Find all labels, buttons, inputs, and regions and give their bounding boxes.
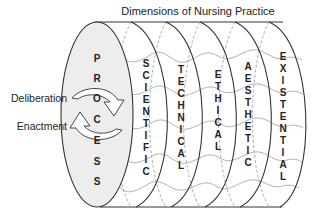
dimension-letter: N <box>279 123 286 134</box>
process-letter: E <box>94 135 101 146</box>
dimension-letter: S <box>280 87 287 98</box>
dimension-letter: I <box>217 105 220 116</box>
dimension-letter: I <box>180 124 183 135</box>
dimension-letter: C <box>142 70 149 81</box>
dimension-letter: I <box>145 82 148 93</box>
dimension-letter: L <box>280 171 286 182</box>
dimension-letter: N <box>177 112 184 123</box>
dimension-letter: I <box>145 154 148 165</box>
dimension-ethical: E T H I C A L <box>214 69 221 152</box>
dimension-letter: A <box>279 159 286 170</box>
dimension-letter: E <box>215 69 222 80</box>
dimension-letter: H <box>177 100 184 111</box>
dimension-letter: N <box>142 106 149 117</box>
deliberation-label: Deliberation <box>11 92 67 104</box>
dimension-letter: A <box>214 129 221 140</box>
dimension-letter: E <box>245 73 252 84</box>
dimension-letter: C <box>177 88 184 99</box>
dimension-letter: E <box>280 111 287 122</box>
dimension-letter: X <box>280 63 287 74</box>
dimension-letter: C <box>244 157 251 168</box>
dimension-letter: S <box>143 58 150 69</box>
dimension-letter: I <box>145 130 148 141</box>
dimension-letter: E <box>178 76 185 87</box>
dimension-letter: I <box>282 75 285 86</box>
dimension-letter: A <box>177 148 184 159</box>
dimension-letter: L <box>178 160 184 171</box>
process-letter: O <box>93 93 101 104</box>
process-letter: S <box>94 176 101 187</box>
dimension-letter: L <box>215 141 221 152</box>
nursing-dimensions-diagram: Dimensions of Nursing Practice Deliberat… <box>0 0 314 221</box>
dimension-letter: C <box>214 117 221 128</box>
dimension-letter: T <box>143 118 149 129</box>
process-word: P R O C E S S <box>93 53 101 187</box>
dimension-letter: T <box>280 99 286 110</box>
dimension-technical: T E C H N I C A L <box>177 64 184 171</box>
dimension-letter: C <box>142 166 149 177</box>
dimension-letter: A <box>244 61 251 72</box>
diagram-title: Dimensions of Nursing Practice <box>121 5 274 17</box>
process-letter: P <box>94 53 101 64</box>
dimension-letter: T <box>178 64 184 75</box>
dimension-letter: T <box>245 97 251 108</box>
dimension-letter: H <box>214 93 221 104</box>
dimension-letter: F <box>143 142 149 153</box>
process-letter: S <box>94 156 101 167</box>
dimension-letter: E <box>245 121 252 132</box>
dimension-letter: S <box>245 85 252 96</box>
dimension-aesthetic: A E S T H E T I C <box>244 61 251 168</box>
dimension-letter: E <box>280 51 287 62</box>
dimension-letter: E <box>143 94 150 105</box>
dimension-letter: C <box>177 136 184 147</box>
dimension-letter: H <box>244 109 251 120</box>
dimension-scientific: S C I E N T I F I C <box>142 58 149 177</box>
dimension-letter: I <box>247 145 250 156</box>
process-letter: R <box>93 73 101 84</box>
dimension-letter: I <box>282 147 285 158</box>
enactment-label: Enactment <box>17 120 67 132</box>
dimension-letter: T <box>245 133 251 144</box>
dimension-existential: E X I S T E N T I A L <box>279 51 286 182</box>
process-letter: C <box>93 114 100 125</box>
dimension-letter: T <box>215 81 221 92</box>
dimension-letter: T <box>280 135 286 146</box>
